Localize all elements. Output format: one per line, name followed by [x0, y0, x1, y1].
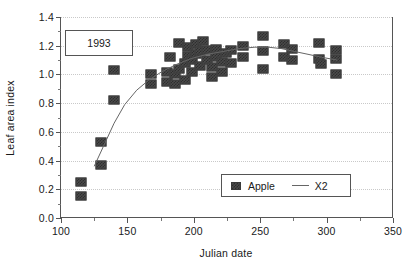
y-tick-label: 0.6 [39, 126, 54, 138]
data-point-marker [316, 60, 327, 69]
x-tick-minor [293, 218, 294, 221]
y-tick-label: 0.2 [39, 183, 54, 195]
x-tick-label: 350 [384, 225, 402, 237]
y-tick-major [56, 17, 61, 18]
legend-square-marker-icon [231, 182, 241, 190]
data-point-marker [225, 46, 236, 55]
y-tick-label: 1.2 [39, 40, 54, 52]
data-point-marker [109, 66, 120, 75]
y-tick-minor [58, 60, 61, 61]
data-point-marker [95, 137, 106, 146]
data-point-marker [95, 160, 106, 169]
y-tick-major [56, 161, 61, 162]
data-point-marker [75, 192, 86, 201]
data-point-marker [109, 96, 120, 105]
data-point-marker [237, 41, 248, 50]
y-tick-label: 0.8 [39, 97, 54, 109]
data-point-marker [216, 67, 227, 76]
year-annotation-label: 1993 [87, 37, 110, 49]
x-tick-minor [227, 218, 228, 221]
legend-entry-x2: X2 [292, 180, 328, 192]
x-tick-minor [360, 218, 361, 221]
y-tick-minor [58, 118, 61, 119]
y-tick-major [56, 189, 61, 190]
y-tick-minor [58, 146, 61, 147]
x-tick-minor [94, 218, 95, 221]
y-tick-major [56, 46, 61, 47]
x-axis-title: Julian date [200, 247, 253, 259]
legend-line-marker-icon [292, 185, 309, 186]
y-tick-major [56, 132, 61, 133]
x-tick-label: 300 [318, 225, 336, 237]
data-point-marker [330, 54, 341, 63]
data-point-marker [257, 64, 268, 73]
data-point-marker [287, 56, 298, 65]
data-point-marker [257, 47, 268, 56]
x-tick-major [61, 218, 62, 223]
x-tick-major [393, 218, 394, 223]
data-point-marker [313, 38, 324, 47]
y-tick-major [56, 74, 61, 75]
y-tick-minor [58, 175, 61, 176]
data-point-marker [330, 70, 341, 79]
x-tick-minor [161, 218, 162, 221]
y-tick-label: 1.0 [39, 68, 54, 80]
data-point-marker [330, 46, 341, 55]
gridline [61, 132, 392, 133]
year-annotation-box: 1993 [65, 30, 133, 56]
chart-legend: Apple X2 [221, 174, 351, 197]
x-tick-label: 150 [118, 225, 136, 237]
x-tick-label: 250 [251, 225, 269, 237]
plot-frame-right [392, 17, 393, 218]
x-tick-major [194, 218, 195, 223]
data-point-marker [179, 76, 190, 85]
data-point-marker [287, 44, 298, 53]
gridline [61, 161, 392, 162]
data-point-marker [164, 53, 175, 62]
x-tick-major [127, 218, 128, 223]
data-point-marker [237, 53, 248, 62]
y-axis-title: Leaf area index [4, 80, 16, 155]
data-point-marker [257, 31, 268, 40]
y-tick-minor [58, 204, 61, 205]
y-tick-minor [58, 31, 61, 32]
data-point-marker [225, 58, 236, 67]
data-point-marker [75, 178, 86, 187]
x-tick-major [260, 218, 261, 223]
y-tick-label: 0.0 [39, 212, 54, 224]
gridline [61, 17, 392, 18]
data-point-marker [146, 80, 157, 89]
chart-figure: Leaf area index Julian date 0.00.20.40.6… [0, 0, 418, 271]
data-point-marker [146, 70, 157, 79]
legend-entry-apple: Apple [231, 180, 275, 192]
legend-label-x2: X2 [315, 180, 328, 192]
y-tick-label: 0.4 [39, 155, 54, 167]
y-tick-major [56, 103, 61, 104]
x-tick-major [327, 218, 328, 223]
y-tick-minor [58, 89, 61, 90]
legend-label-apple: Apple [248, 180, 275, 192]
y-tick-label: 1.4 [39, 11, 54, 23]
x-tick-label: 200 [185, 225, 203, 237]
x-tick-label: 100 [52, 225, 70, 237]
